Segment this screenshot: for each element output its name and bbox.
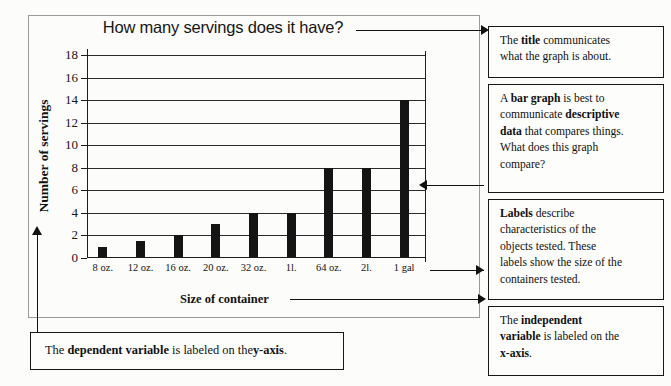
- callout-emphasis: dependent variable: [67, 343, 169, 357]
- plot-area: 024681012141618: [87, 55, 426, 258]
- x-tick-label: 2l.: [361, 262, 372, 273]
- bargraph-leader-line: [427, 185, 484, 186]
- x-axis-title-leader-arrow-icon: [478, 294, 486, 304]
- callout-labels: Labels describecharacteristics of theobj…: [488, 199, 664, 300]
- x-tick-label: 32 oz.: [241, 262, 267, 273]
- x-tick-label: 12 oz.: [128, 262, 154, 273]
- bar: [324, 168, 333, 258]
- callout-line: variable is labeled on the: [500, 329, 654, 345]
- y-tick-label: 8: [72, 159, 79, 175]
- callout-emphasis: Labels: [500, 207, 533, 220]
- x-axis-tick-labels: 8 oz.12 oz.16 oz.20 oz.32 oz.1l.64 oz.2l…: [87, 262, 426, 278]
- callout-line: y-axis.: [253, 342, 287, 360]
- callout-bar-graph: A bar graph is best tocommunicate descri…: [488, 84, 664, 193]
- bar: [174, 235, 183, 258]
- callout-line: A bar graph is best to: [500, 91, 654, 107]
- callout-line: What does this graph: [500, 140, 654, 156]
- x-axis-title: Size of container: [180, 292, 269, 307]
- bar: [249, 213, 258, 258]
- callout-line: communicate descriptive: [500, 107, 654, 123]
- y-tick-label: 12: [65, 114, 78, 130]
- callout-title: The title communicateswhat the graph is …: [488, 26, 664, 78]
- bar: [362, 168, 371, 258]
- callout-line: labels show the size of the: [500, 255, 654, 271]
- chart-title: How many servings does it have?: [88, 18, 358, 37]
- x-tick-label: 8 oz.: [93, 262, 113, 273]
- callout-emphasis: title: [521, 34, 540, 47]
- callout-line: The dependent variable is labeled on the: [45, 342, 253, 360]
- y-tick-mark: [81, 258, 87, 259]
- callout-line: Labels describe: [500, 206, 654, 222]
- callout-dependent-variable: The dependent variable is labeled on the…: [30, 332, 344, 370]
- labels-leader-arrow-icon: [476, 265, 484, 275]
- callout-line: containers tested.: [500, 272, 654, 288]
- callout-line: characteristics of the: [500, 222, 654, 238]
- callout-emphasis: y-axis: [253, 343, 284, 357]
- y-tick-label: 2: [72, 227, 79, 243]
- y-axis-leader-arrow-icon: [32, 226, 42, 235]
- callout-line: The title communicates: [500, 33, 654, 49]
- callout-line: The independent: [500, 313, 654, 329]
- y-tick-label: 0: [72, 250, 79, 266]
- callout-independent-variable: The independentvariable is labeled on th…: [488, 306, 664, 376]
- callout-line: objects tested. These: [500, 239, 654, 255]
- callout-emphasis: x-axis: [500, 347, 529, 360]
- callout-emphasis: bar graph: [511, 92, 561, 105]
- callout-emphasis: data: [500, 125, 522, 138]
- y-tick-label: 14: [65, 92, 78, 108]
- x-tick-label: 1l.: [286, 262, 297, 273]
- title-leader-line: [356, 30, 484, 31]
- bar: [400, 100, 409, 258]
- bar: [287, 213, 296, 258]
- callout-emphasis: variable: [500, 330, 541, 343]
- x-axis-title-leader-line: [290, 299, 484, 300]
- x-tick-label: 1 gal: [394, 262, 415, 273]
- bargraph-leader-arrow-icon: [419, 180, 427, 190]
- y-axis-title: Number of servings: [36, 76, 52, 236]
- x-tick-label: 16 oz.: [165, 262, 191, 273]
- x-axis-line: [87, 257, 426, 258]
- y-tick-label: 16: [65, 69, 78, 85]
- x-tick-label: 64 oz.: [316, 262, 342, 273]
- x-tick-label: 20 oz.: [203, 262, 229, 273]
- y-tick-label: 4: [72, 205, 79, 221]
- callout-line: x-axis.: [500, 346, 654, 362]
- y-tick-label: 10: [65, 137, 78, 153]
- callout-emphasis: independent: [521, 314, 582, 327]
- bar: [136, 241, 145, 258]
- bar-series: [87, 55, 426, 258]
- y-tick-label: 18: [65, 47, 78, 63]
- callout-line: compare?: [500, 157, 654, 173]
- callout-emphasis: descriptive: [565, 108, 619, 121]
- callout-line: data that compares things.: [500, 124, 654, 140]
- bar: [211, 224, 220, 258]
- callout-line: what the graph is about.: [500, 49, 654, 65]
- y-tick-label: 6: [72, 182, 79, 198]
- dependent-variable-connector-line: [37, 300, 38, 332]
